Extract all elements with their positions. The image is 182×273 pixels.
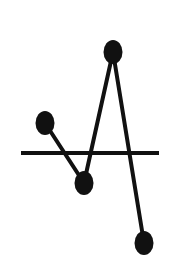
- data-point-marker-4: [135, 231, 154, 255]
- chart-background: [0, 0, 182, 273]
- line-chart: [0, 0, 182, 273]
- data-point-marker-2: [75, 171, 94, 195]
- data-point-marker-3: [104, 40, 123, 64]
- data-point-marker-1: [36, 111, 55, 135]
